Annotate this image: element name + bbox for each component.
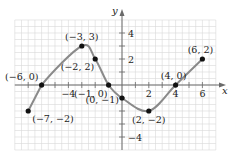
data-point [200,56,205,61]
point-label: (−3, 3) [65,31,99,42]
data-point [79,43,84,48]
x-tick-label: 2 [146,88,152,99]
x-axis-label: x [222,85,228,96]
point-label: (0, −1) [85,94,119,105]
y-axis-label: y [111,5,118,16]
x-tick-label: 6 [199,88,205,99]
point-label: (4, 0) [161,70,187,81]
point-label: (−6, 0) [5,71,39,82]
point-label: (−7, −2) [32,113,73,124]
y-tick-label: 2 [128,54,134,65]
point-label: (2, −2) [132,114,166,125]
data-point [119,95,124,100]
x-tick-label: 4 [173,88,179,99]
y-axis-arrow-icon [120,9,125,16]
data-point [146,108,151,113]
y-tick-label: −4 [128,132,142,143]
data-point [173,82,178,87]
point-label: (6, 2) [188,44,214,55]
data-point [106,82,111,87]
y-tick-label: 4 [128,28,134,39]
data-point [26,108,31,113]
function-graph: xy −424642−4 (−7, −2)(−6, 0)(−3, 3)(−2, … [0,0,239,159]
plot-svg: xy −424642−4 (−7, −2)(−6, 0)(−3, 3)(−2, … [0,0,239,159]
data-point [39,82,44,87]
point-label: (−2, 2) [61,61,95,72]
